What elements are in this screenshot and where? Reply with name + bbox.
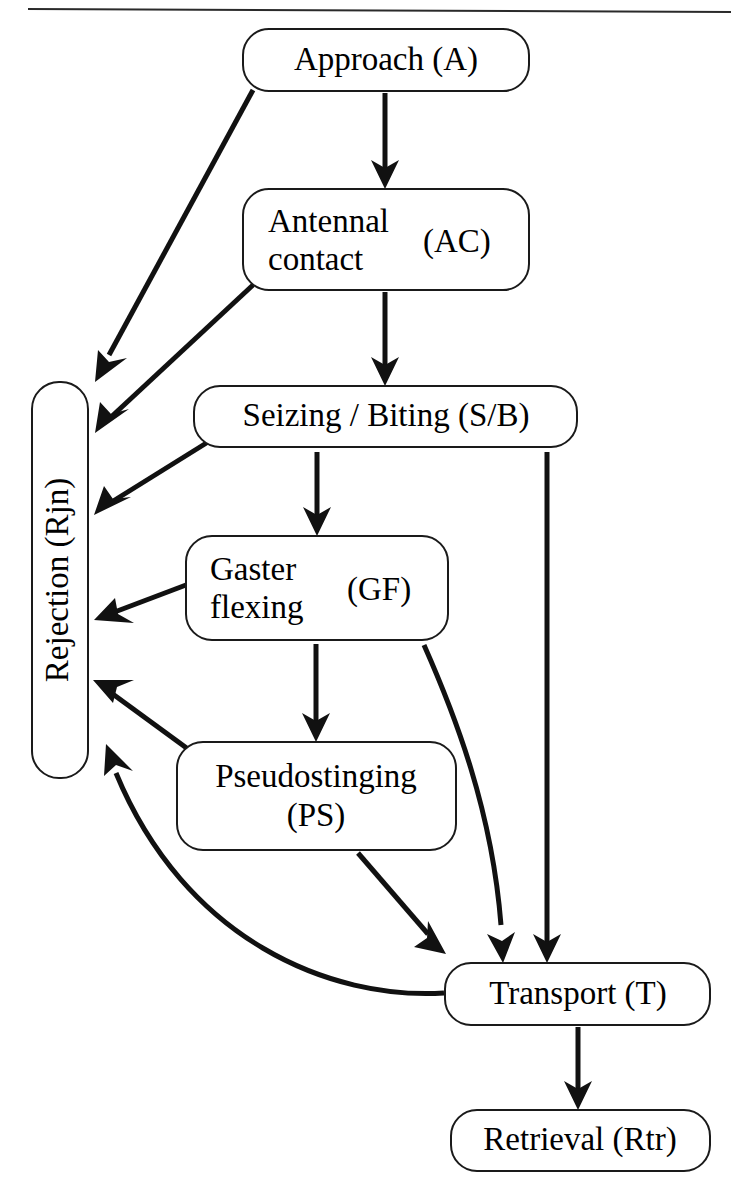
- edge-seizing-biting-to-transport: [533, 452, 561, 963]
- node-gaster-flexing-code: (GF): [347, 571, 411, 608]
- node-retrieval[interactable]: Retrieval (Rtr): [451, 1110, 710, 1171]
- edge-seizing-biting-to-rejection: [94, 442, 208, 515]
- node-pseudostinging-label-line1: Pseudostinging: [215, 758, 417, 794]
- edge-approach-to-antennal-contact: [371, 93, 399, 189]
- edge-antennal-contact-to-seizing-biting: [371, 292, 399, 386]
- arrowhead-icon: [93, 680, 134, 703]
- node-antennal-contact[interactable]: Antennal contact (AC): [243, 189, 529, 290]
- edge-transport-to-retrieval: [564, 1027, 592, 1110]
- edge-pseudostinging-to-transport: [358, 853, 446, 954]
- top-divider-rule: [28, 9, 731, 12]
- flowchart-diagram: Approach (A) Antennal contact (AC) Seizi…: [0, 0, 731, 1187]
- node-gaster-flexing[interactable]: Gaster flexing (GF): [186, 536, 448, 640]
- node-gaster-flexing-label-line2: flexing: [210, 589, 303, 625]
- node-antennal-contact-label-line2: contact: [268, 241, 363, 277]
- node-retrieval-label: Retrieval (Rtr): [483, 1121, 676, 1158]
- node-rejection[interactable]: Rejection (Rjn): [32, 382, 88, 778]
- node-transport[interactable]: Transport (T): [445, 963, 710, 1025]
- edge-seizing-biting-to-gaster-flexing: [303, 452, 331, 536]
- edge-gaster-flexing-to-pseudostinging: [302, 644, 330, 742]
- arrowhead-icon: [94, 486, 131, 515]
- edge-gaster-flexing-to-rejection: [94, 585, 186, 623]
- flowchart-canvas: Approach (A) Antennal contact (AC) Seizi…: [0, 0, 731, 1187]
- node-pseudostinging[interactable]: Pseudostinging (PS): [177, 742, 456, 850]
- edge-approach-to-rejection: [95, 90, 253, 382]
- node-seizing-biting-label: Seizing / Biting (S/B): [243, 397, 530, 434]
- node-pseudostinging-label-line2: (PS): [287, 797, 346, 834]
- node-seizing-biting[interactable]: Seizing / Biting (S/B): [194, 386, 577, 447]
- node-antennal-contact-code: (AC): [423, 223, 491, 260]
- node-approach[interactable]: Approach (A): [243, 29, 529, 91]
- node-transport-label: Transport (T): [489, 975, 667, 1012]
- arrowhead-icon: [94, 598, 134, 623]
- node-rejection-label: Rejection (Rjn): [39, 478, 76, 682]
- arrowhead-icon: [487, 932, 515, 963]
- node-antennal-contact-label-line1: Antennal: [268, 203, 389, 239]
- node-gaster-flexing-label-line1: Gaster: [210, 551, 296, 587]
- arrowhead-icon: [104, 744, 133, 776]
- node-approach-label: Approach (A): [294, 41, 478, 78]
